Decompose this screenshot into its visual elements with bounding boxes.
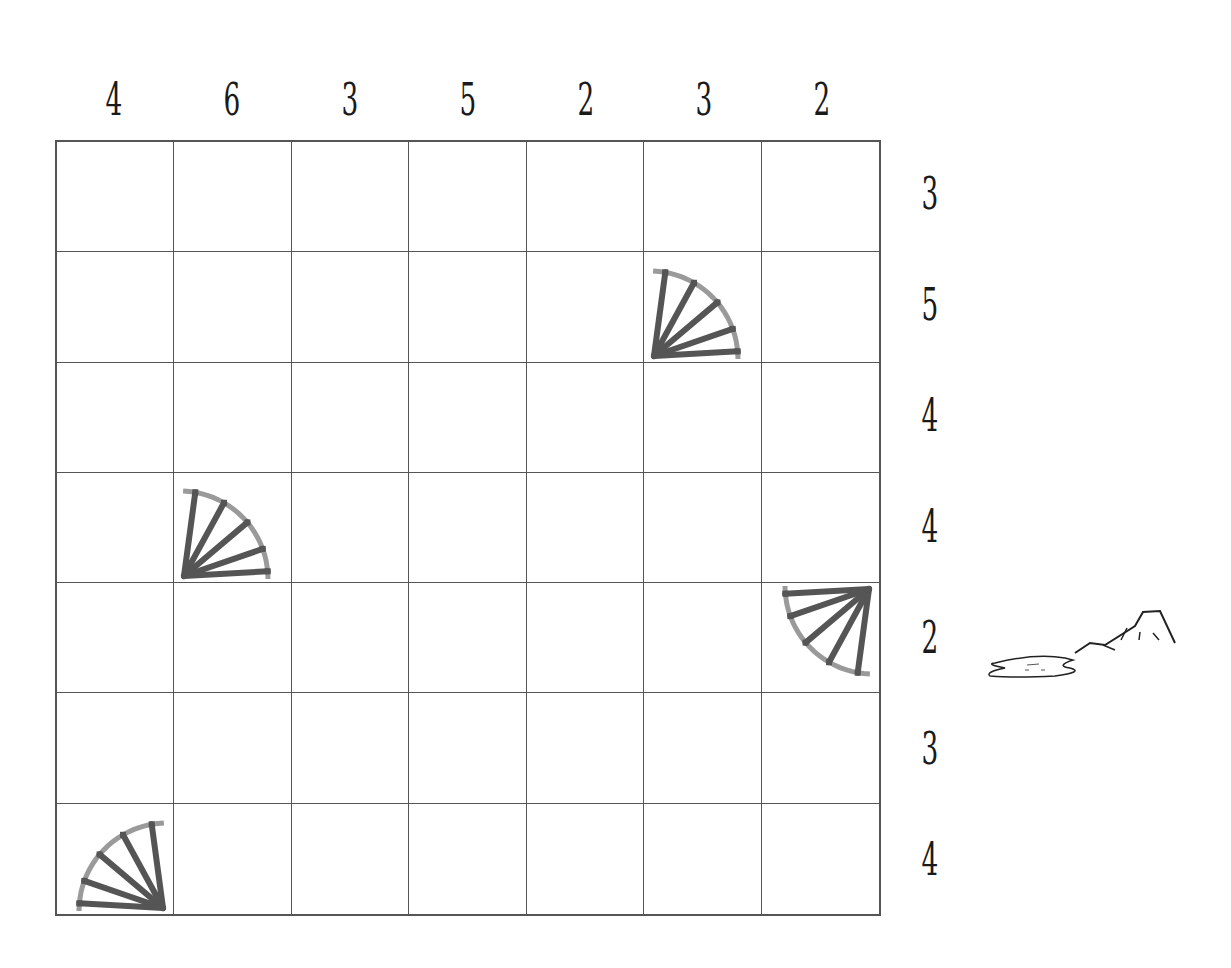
cell-r0-c6[interactable] bbox=[762, 142, 879, 252]
fan-icon bbox=[75, 816, 175, 916]
mountain-lake-icon bbox=[975, 598, 1180, 688]
cell-r1-c2[interactable] bbox=[292, 252, 409, 362]
row-clue: 3 bbox=[918, 172, 942, 216]
cell-r4-c5[interactable] bbox=[644, 583, 761, 693]
row-clue: 4 bbox=[918, 394, 942, 438]
row-clue: 3 bbox=[918, 727, 942, 771]
cell-r3-c6[interactable] bbox=[762, 473, 879, 583]
cell-r6-c0[interactable] bbox=[57, 804, 174, 914]
cell-r5-c5[interactable] bbox=[644, 693, 761, 803]
cell-r3-c0[interactable] bbox=[57, 473, 174, 583]
cell-r2-c1[interactable] bbox=[174, 363, 291, 473]
cell-r2-c3[interactable] bbox=[409, 363, 526, 473]
cell-r0-c0[interactable] bbox=[57, 142, 174, 252]
cell-r1-c5[interactable] bbox=[644, 252, 761, 362]
cell-r6-c1[interactable] bbox=[174, 804, 291, 914]
cell-r3-c5[interactable] bbox=[644, 473, 761, 583]
cell-r2-c4[interactable] bbox=[527, 363, 644, 473]
cell-r0-c5[interactable] bbox=[644, 142, 761, 252]
cell-r6-c5[interactable] bbox=[644, 804, 761, 914]
cell-r4-c2[interactable] bbox=[292, 583, 409, 693]
cell-r5-c3[interactable] bbox=[409, 693, 526, 803]
cell-r0-c2[interactable] bbox=[292, 142, 409, 252]
column-clue: 3 bbox=[315, 78, 386, 122]
cell-r2-c2[interactable] bbox=[292, 363, 409, 473]
cell-r2-c6[interactable] bbox=[762, 363, 879, 473]
cell-r5-c0[interactable] bbox=[57, 693, 174, 803]
cell-r5-c1[interactable] bbox=[174, 693, 291, 803]
cell-r6-c3[interactable] bbox=[409, 804, 526, 914]
column-clue: 5 bbox=[433, 78, 504, 122]
cell-r4-c3[interactable] bbox=[409, 583, 526, 693]
cell-r0-c3[interactable] bbox=[409, 142, 526, 252]
cell-r5-c2[interactable] bbox=[292, 693, 409, 803]
cell-r4-c4[interactable] bbox=[527, 583, 644, 693]
cell-r1-c3[interactable] bbox=[409, 252, 526, 362]
column-clue: 6 bbox=[197, 78, 268, 122]
column-clue: 2 bbox=[551, 78, 622, 122]
fan-icon bbox=[172, 484, 272, 584]
row-clue: 4 bbox=[918, 838, 942, 882]
cell-r1-c4[interactable] bbox=[527, 252, 644, 362]
column-clue: 2 bbox=[787, 78, 858, 122]
cell-r2-c5[interactable] bbox=[644, 363, 761, 473]
puzzle-grid bbox=[55, 140, 881, 916]
cell-r4-c1[interactable] bbox=[174, 583, 291, 693]
cell-r2-c0[interactable] bbox=[57, 363, 174, 473]
cell-r3-c1[interactable] bbox=[174, 473, 291, 583]
cell-r4-c6[interactable] bbox=[762, 583, 879, 693]
cell-r6-c4[interactable] bbox=[527, 804, 644, 914]
cell-r5-c6[interactable] bbox=[762, 693, 879, 803]
cell-r1-c6[interactable] bbox=[762, 252, 879, 362]
fan-icon bbox=[642, 264, 742, 364]
cell-r5-c4[interactable] bbox=[527, 693, 644, 803]
fan-icon bbox=[781, 581, 881, 681]
column-clue: 4 bbox=[79, 78, 150, 122]
column-clue: 3 bbox=[669, 78, 740, 122]
row-clue: 4 bbox=[918, 505, 942, 549]
row-clue: 5 bbox=[918, 283, 942, 327]
cell-r3-c4[interactable] bbox=[527, 473, 644, 583]
cell-r3-c2[interactable] bbox=[292, 473, 409, 583]
cell-r0-c1[interactable] bbox=[174, 142, 291, 252]
cell-r6-c6[interactable] bbox=[762, 804, 879, 914]
cell-r4-c0[interactable] bbox=[57, 583, 174, 693]
row-clue: 2 bbox=[918, 616, 942, 660]
cell-r3-c3[interactable] bbox=[409, 473, 526, 583]
cell-r1-c0[interactable] bbox=[57, 252, 174, 362]
cell-r6-c2[interactable] bbox=[292, 804, 409, 914]
cell-r1-c1[interactable] bbox=[174, 252, 291, 362]
cell-r0-c4[interactable] bbox=[527, 142, 644, 252]
